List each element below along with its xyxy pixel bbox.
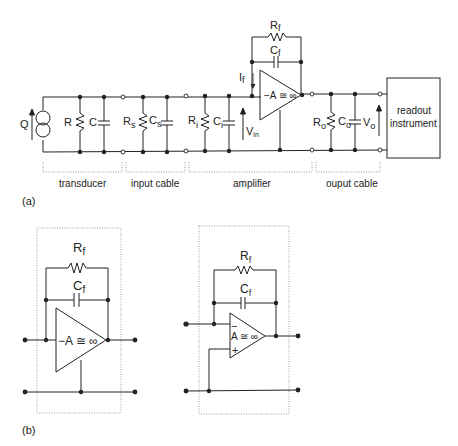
label-Rf-right: Rf (240, 249, 252, 265)
circuit-diagram: Q R C Rs Cs Ri Ci Vin If Rf Cf −A ≅ ∞ Ro… (0, 0, 458, 446)
label-If: If (239, 71, 245, 85)
resistor-Rf-left-icon (68, 263, 86, 273)
resistor-Rf-icon (268, 33, 286, 41)
label-Vin: Vin (246, 125, 259, 138)
label-R: R (64, 116, 72, 128)
label-Cs: Cs (149, 114, 162, 129)
label-gain-b-right: A ≅ ∞ (231, 331, 258, 342)
section-output-cable: ouput cable (326, 178, 378, 189)
label-readout: readout (397, 105, 431, 116)
label-Ci: Ci (213, 115, 223, 130)
section-amplifier: amplifier (233, 178, 271, 189)
resistor-R-icon (76, 113, 84, 131)
label-plus-input: + (232, 344, 238, 356)
label-Rs: Rs (123, 115, 136, 130)
label-Q: Q (20, 118, 29, 130)
label-instrument: instrument (390, 118, 437, 129)
bottom-rail (43, 150, 387, 152)
label-Cf: Cf (270, 44, 281, 58)
label-Cf-right: Cf (240, 282, 252, 298)
label-Ro: Ro (313, 116, 326, 131)
label-Co: Co (338, 115, 351, 130)
panel-label-a: (a) (22, 195, 35, 207)
label-Vo: Vo (363, 116, 375, 131)
resistor-Ro-icon (327, 112, 335, 130)
section-transducer: transducer (59, 178, 107, 189)
label-Ri: Ri (188, 114, 198, 130)
resistor-Rf-right-icon (235, 266, 253, 274)
label-Rf-left: Rf (73, 240, 85, 257)
label-Rf: Rf (270, 19, 281, 33)
ground-rail-right (186, 390, 298, 391)
label-Cf-left: Cf (73, 278, 85, 295)
label-gain-a: −A ≅ ∞ (264, 90, 297, 101)
resistor-Rs-icon (139, 113, 147, 131)
resistor-Ri-icon (201, 113, 209, 131)
panel-label-b: (b) (22, 424, 35, 436)
section-input-cable: input cable (131, 178, 180, 189)
label-gain-b-left: −A ≅ ∞ (58, 334, 98, 348)
label-C: C (89, 116, 97, 128)
